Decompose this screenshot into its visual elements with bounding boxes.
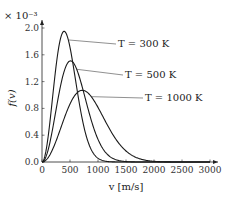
y-tick-label: 1.2 bbox=[25, 77, 39, 87]
x-tick-label: 3000 bbox=[199, 165, 222, 175]
y-tick-label: 0.4 bbox=[25, 130, 40, 140]
x-axis-arrow bbox=[213, 160, 218, 164]
x-tick-label: 2500 bbox=[171, 165, 194, 175]
x-tick-label: 1000 bbox=[87, 165, 110, 175]
y-axis-arrow bbox=[40, 20, 44, 25]
scale-label: × 10⁻³ bbox=[4, 10, 38, 21]
x-axis-label: v [m/s] bbox=[108, 181, 144, 192]
y-axis-label: f(v) bbox=[6, 89, 17, 107]
x-tick-label: 1500 bbox=[115, 165, 138, 175]
y-tick-label: 2.0 bbox=[25, 23, 40, 33]
annotation-500K: T = 500 K bbox=[125, 69, 177, 80]
annotation-1000K: T = 1000 K bbox=[145, 92, 203, 103]
chart: 0500100015002000250030000.00.40.81.21.62… bbox=[0, 0, 235, 200]
x-tick-label: 2000 bbox=[143, 165, 166, 175]
y-tick-label: 0.8 bbox=[25, 103, 40, 113]
x-tick-label: 0 bbox=[39, 165, 45, 175]
x-tick-label: 500 bbox=[61, 165, 78, 175]
leader-line bbox=[68, 40, 116, 44]
annotation-300K: T = 300 K bbox=[118, 38, 170, 49]
y-tick-label: 0.0 bbox=[25, 157, 40, 167]
leader-line bbox=[77, 69, 123, 75]
leader-line bbox=[91, 97, 143, 98]
y-tick-label: 1.6 bbox=[25, 50, 40, 60]
